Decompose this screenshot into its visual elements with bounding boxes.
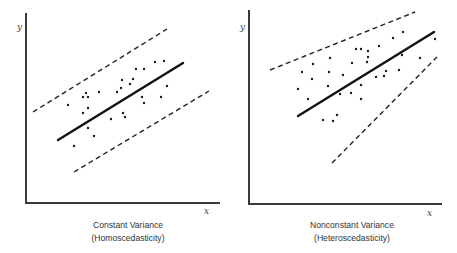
data-point (401, 54, 403, 56)
data-point (360, 84, 362, 86)
data-point (419, 57, 421, 59)
data-point (87, 107, 89, 109)
data-point (132, 78, 134, 80)
data-point (434, 38, 436, 40)
data-point (67, 104, 69, 106)
data-point (329, 57, 331, 59)
data-point (350, 92, 352, 94)
data-point (366, 61, 368, 63)
data-point (332, 120, 334, 122)
data-point (110, 118, 112, 120)
right-upper-band (270, 12, 415, 70)
data-point (339, 93, 341, 95)
data-point (120, 87, 122, 89)
data-point (392, 37, 394, 39)
data-point (141, 96, 143, 98)
right-caption-subtitle: (Heteroscedasticity) (287, 232, 417, 245)
data-point (135, 68, 137, 70)
data-point (398, 69, 400, 71)
right-x-axis-label: x (427, 208, 432, 218)
data-point (116, 91, 118, 93)
left-caption-subtitle: (Homoscedasticity) (68, 232, 188, 245)
right-caption: Nonconstant Variance (Heteroscedasticity… (287, 219, 417, 245)
data-point (87, 96, 89, 98)
data-point (143, 68, 145, 70)
data-point (87, 127, 89, 129)
right-caption-title: Nonconstant Variance (287, 219, 417, 232)
data-point (307, 98, 309, 100)
right-lower-band (332, 57, 437, 163)
left-regression-line (58, 63, 183, 140)
data-point (351, 62, 353, 64)
data-point (355, 48, 357, 50)
data-point (73, 145, 75, 147)
figure: y x y x (0, 0, 457, 253)
data-point (385, 70, 387, 72)
data-point (312, 63, 314, 65)
data-point (98, 91, 100, 93)
data-point (367, 56, 369, 58)
data-point (301, 71, 303, 73)
left-axes (26, 13, 220, 203)
left-y-axis-label: y (16, 22, 23, 32)
data-point (297, 88, 299, 90)
data-point (360, 48, 362, 50)
data-point (82, 96, 84, 98)
data-point (383, 75, 385, 77)
heteroscedasticity-panel: y x (239, 10, 442, 218)
data-point (378, 45, 380, 47)
data-point (342, 74, 344, 76)
data-point (160, 96, 162, 98)
data-point (129, 83, 131, 85)
data-point (122, 112, 124, 114)
right-y-axis-label: y (239, 22, 246, 32)
data-point (143, 102, 145, 104)
data-point (163, 60, 165, 62)
data-point (327, 85, 329, 87)
data-point (85, 92, 87, 94)
data-point (154, 61, 156, 63)
left-lower-band (74, 91, 209, 172)
data-point (124, 116, 126, 118)
data-point (402, 31, 404, 33)
data-point (336, 114, 338, 116)
left-caption-title: Constant Variance (68, 219, 188, 232)
data-point (322, 119, 324, 121)
data-point (166, 85, 168, 87)
right-axes (249, 10, 442, 204)
data-point (360, 98, 362, 100)
data-point (328, 71, 330, 73)
left-upper-band (33, 29, 167, 112)
left-x-axis-label: x (204, 206, 209, 216)
data-point (121, 79, 123, 81)
right-regression-line (298, 32, 434, 116)
homoscedasticity-panel: y x (16, 13, 220, 216)
data-point (82, 112, 84, 114)
data-point (93, 135, 95, 137)
data-point (367, 50, 369, 52)
data-point (311, 78, 313, 80)
data-point (375, 76, 377, 78)
left-caption: Constant Variance (Homoscedasticity) (68, 219, 188, 245)
